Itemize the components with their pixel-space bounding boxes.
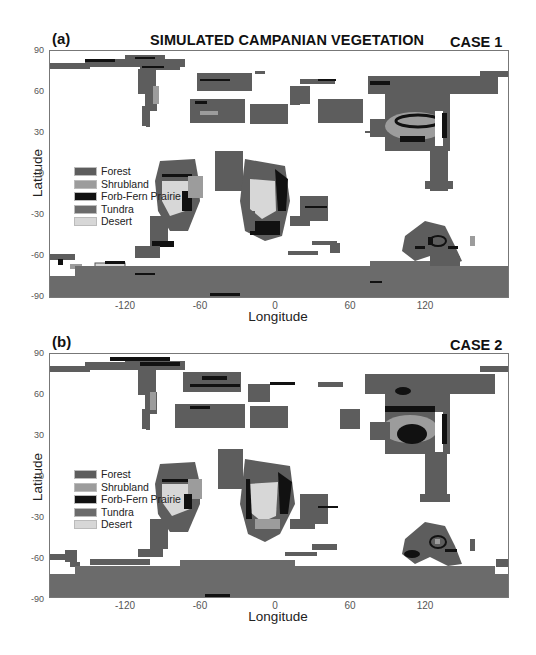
y-tick: 60 [18,86,44,96]
y-tick: -60 [18,250,44,260]
legend-item-forb-fern-prairie: Forb-Fern Prairie [74,191,181,203]
legend-item-desert: Desert [74,216,181,228]
forest-swatch [74,470,97,479]
panel-label: (a) [52,30,70,47]
forest-swatch [74,167,97,176]
x-tick: -120 [105,600,145,611]
panel-label: (b) [52,333,71,350]
y-tick: 30 [18,127,44,137]
y-tick: -30 [18,209,44,219]
vegetation-map: Forest Shrubland Forb-Fern Prairie Tundr… [49,50,509,298]
tundra-swatch [74,508,97,517]
y-tick: 90 [18,45,44,55]
legend-item-tundra: Tundra [74,507,181,519]
legend: Forest Shrubland Forb-Fern Prairie Tundr… [74,166,181,229]
figure-title: SIMULATED CAMPANIAN VEGETATION [150,32,424,48]
vegetation-map: Forest Shrubland Forb-Fern Prairie Tundr… [49,353,509,598]
prairie-swatch [74,495,97,504]
x-tick: 120 [405,600,445,611]
legend-item-forb-fern-prairie: Forb-Fern Prairie [74,494,181,506]
legend-item-forest: Forest [74,469,181,481]
y-tick: 60 [18,389,44,399]
x-tick: -60 [180,600,220,611]
prairie-swatch [74,192,97,201]
x-tick: -120 [105,300,145,311]
y-tick: -90 [18,594,44,604]
x-tick: -60 [180,300,220,311]
legend-item-desert: Desert [74,519,181,531]
legend: Forest Shrubland Forb-Fern Prairie Tundr… [74,469,181,532]
y-tick: -30 [18,512,44,522]
case-label: CASE 1 [450,34,502,50]
legend-item-shrubland: Shrubland [74,179,181,191]
desert-swatch [74,520,97,529]
y-tick: 0 [18,471,44,481]
y-tick: 0 [18,168,44,178]
tundra-swatch [74,205,97,214]
panel-b: (b) CASE 2 Latitude 90 60 30 0 -30 -60 -… [0,325,536,655]
x-axis-label: Longitude [218,609,338,624]
case-label: CASE 2 [450,337,502,353]
y-tick: -90 [18,291,44,301]
y-tick: -60 [18,553,44,563]
x-tick: 120 [405,300,445,311]
legend-item-tundra: Tundra [74,204,181,216]
shrubland-swatch [74,180,97,189]
legend-item-shrubland: Shrubland [74,482,181,494]
shrubland-swatch [74,483,97,492]
panel-a: (a) SIMULATED CAMPANIAN VEGETATION CASE … [0,0,536,325]
legend-item-forest: Forest [74,166,181,178]
y-tick: 30 [18,430,44,440]
y-tick: 90 [18,348,44,358]
x-axis-label: Longitude [218,309,338,324]
desert-swatch [74,217,97,226]
